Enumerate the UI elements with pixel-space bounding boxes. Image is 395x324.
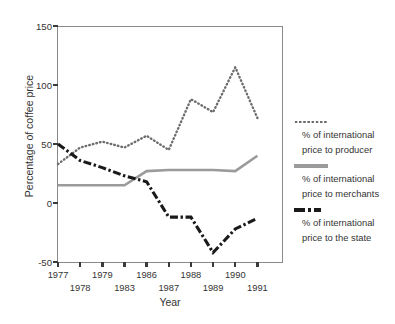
x-tick-label: 1977 — [48, 270, 69, 280]
x-tick-label: 1986 — [136, 270, 157, 280]
plot-area: -50050100150 197719791986198819901978198… — [57, 26, 283, 262]
x-tick-label: 1991 — [247, 283, 268, 293]
chart-container: Percentage of coffee price Year -5005010… — [0, 0, 395, 324]
x-tick — [57, 262, 59, 267]
y-tick-label: 100 — [36, 80, 52, 91]
x-tick — [190, 262, 192, 267]
x-tick-label: 1990 — [225, 270, 246, 280]
x-axis-line — [57, 262, 283, 263]
x-tick-label: 1989 — [203, 283, 224, 293]
x-tick — [101, 262, 103, 267]
x-axis-label: Year — [57, 296, 283, 308]
y-tick-label: 0 — [47, 198, 52, 209]
dash-dot-line-icon — [294, 208, 328, 212]
x-tick-label: 1987 — [158, 283, 179, 293]
x-tick — [123, 262, 125, 267]
x-tick-label: 1983 — [114, 283, 135, 293]
y-axis-label: Percentage of coffee price — [23, 41, 35, 231]
x-tick — [168, 262, 170, 267]
legend-label-merchants-line2: price to merchants — [302, 186, 395, 201]
series-line — [58, 144, 257, 253]
x-tick-label: 1979 — [92, 270, 113, 280]
series-line — [58, 156, 257, 186]
series-line — [58, 67, 257, 164]
dotted-line-icon — [294, 120, 328, 124]
legend-entry-state: % of international price to the state — [292, 208, 395, 245]
legend-label-producer-line2: price to producer — [302, 142, 395, 157]
legend-entry-merchants: % of international price to merchants — [292, 164, 395, 201]
x-tick — [79, 262, 81, 267]
x-tick — [145, 262, 147, 267]
legend-label-merchants-line1: % of international — [302, 171, 395, 186]
x-tick-label: 1978 — [70, 283, 91, 293]
y-tick-label: -50 — [38, 257, 52, 268]
y-tick-label: 150 — [36, 21, 52, 32]
y-tick-label: 50 — [41, 139, 52, 150]
x-tick — [234, 262, 236, 267]
data-series-group — [57, 26, 283, 262]
chart-legend: % of international price to producer % o… — [292, 120, 395, 252]
x-tick — [256, 262, 258, 267]
x-tick-label: 1988 — [181, 270, 202, 280]
legend-label-state-line2: price to the state — [302, 230, 395, 245]
legend-label-producer-line1: % of international — [302, 127, 395, 142]
legend-entry-producer: % of international price to producer — [292, 120, 395, 157]
x-tick — [212, 262, 214, 267]
legend-label-state-line1: % of international — [302, 215, 395, 230]
solid-line-icon — [294, 164, 328, 168]
